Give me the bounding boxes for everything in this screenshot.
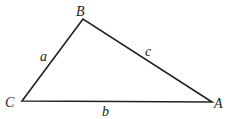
side-label-c: c [145,44,152,59]
triangle-diagram: B C A a c b [0,0,226,119]
side-label-b: b [102,104,109,119]
vertex-label-a: A [213,96,223,111]
vertex-label-c: C [5,95,15,110]
vertex-label-b: B [76,4,85,19]
triangle-abc [22,19,212,102]
triangle-svg: B C A a c b [0,0,226,119]
side-label-a: a [40,49,47,64]
